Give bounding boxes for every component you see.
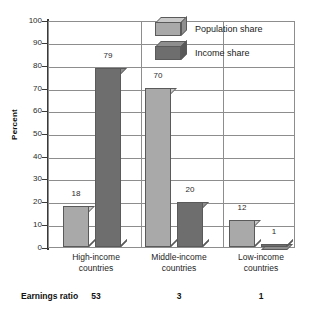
- bar-value-label: 1: [253, 228, 295, 236]
- cube-icon: [155, 46, 181, 60]
- bar-side-face: [203, 239, 209, 247]
- category-label-low-income: Low-income countries: [215, 252, 307, 274]
- category-label-line2: countries: [133, 263, 225, 274]
- legend-label: Income share: [195, 47, 250, 59]
- category-label-line2: countries: [50, 263, 142, 274]
- category-label-line2: countries: [215, 263, 307, 274]
- legend-label: Population share: [195, 23, 263, 35]
- earnings-ratio-label: Earnings ratio: [21, 291, 78, 301]
- category-separator: [141, 22, 142, 247]
- bar-value-label: 70: [137, 72, 179, 80]
- chart-container: Percent 100 90 80 70 60 50 40 30 20 10 0: [0, 0, 313, 314]
- category-label-middle-income: Middle-income countries: [133, 252, 225, 274]
- bar-population-low-income[interactable]: [229, 220, 255, 247]
- bar-front-face: [177, 202, 203, 247]
- gridline: [49, 112, 294, 113]
- category-label-line1: Low-income: [215, 252, 307, 263]
- category-label-high-income: High-income countries: [50, 252, 142, 274]
- bar-side-face: [121, 239, 127, 247]
- earnings-ratio-value-middle-income: 3: [158, 291, 200, 301]
- gridline: [49, 135, 294, 136]
- y-tick-label: 30: [16, 175, 42, 183]
- y-tick-label: 10: [16, 221, 42, 229]
- y-tick-label: 100: [16, 17, 42, 25]
- bar-front-face: [229, 220, 255, 247]
- bar-population-middle-income[interactable]: [145, 88, 171, 247]
- y-axis-tick-labels: 100 90 80 70 60 50 40 30 20 10 0: [14, 0, 42, 314]
- earnings-ratio-value-low-income: 1: [240, 291, 282, 301]
- cube-icon: [155, 22, 181, 36]
- category-label-line1: High-income: [50, 252, 142, 263]
- bar-front-face: [145, 88, 171, 247]
- bar-population-high-income[interactable]: [63, 206, 89, 247]
- y-tick-label: 50: [16, 130, 42, 138]
- y-tick-label: 20: [16, 198, 42, 206]
- bar-front-face: [63, 206, 89, 247]
- bar-value-label: 12: [221, 204, 263, 212]
- y-tick-label: 90: [16, 39, 42, 47]
- plot-area: 18 79 70 20 12: [48, 21, 295, 248]
- y-tick-label: 40: [16, 153, 42, 161]
- gridline: [49, 158, 294, 159]
- cube-front-face: [155, 22, 181, 36]
- bar-value-label: 79: [87, 52, 129, 60]
- bar-income-middle-income[interactable]: [177, 202, 203, 247]
- gridline: [49, 180, 294, 181]
- y-tick-label: 0: [16, 244, 42, 252]
- bar-value-label: 18: [55, 190, 97, 198]
- bar-front-face: [95, 68, 121, 247]
- y-tick-label: 80: [16, 62, 42, 70]
- y-tick-label: 70: [16, 85, 42, 93]
- cube-front-face: [155, 46, 181, 60]
- bar-income-low-income[interactable]: [261, 244, 287, 247]
- bar-front-face: [261, 244, 287, 247]
- bar-value-label: 20: [169, 186, 211, 194]
- y-tick-label: 60: [16, 107, 42, 115]
- bar-income-high-income[interactable]: [95, 68, 121, 247]
- gridline: [49, 67, 294, 68]
- earnings-ratio-value-high-income: 53: [75, 291, 117, 301]
- category-label-line1: Middle-income: [133, 252, 225, 263]
